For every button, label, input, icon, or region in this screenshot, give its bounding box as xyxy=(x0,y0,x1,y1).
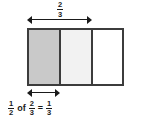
top-span-arrow xyxy=(27,15,92,24)
arrow-line xyxy=(31,92,56,93)
equation-fraction-one-third: 1 3 xyxy=(46,100,52,117)
equation-operator-of: of xyxy=(17,104,26,113)
fraction-denominator: 2 xyxy=(8,109,14,117)
area-model-cell-1 xyxy=(29,30,61,84)
fraction-numerator: 2 xyxy=(57,1,63,10)
area-model-cell-3 xyxy=(93,30,122,84)
area-model-cell-2 xyxy=(61,30,93,84)
arrow-line xyxy=(31,19,88,20)
equation: 1 2 of 2 3 = 1 3 xyxy=(8,99,52,117)
area-model-rectangle xyxy=(27,28,124,86)
equation-equals-sign: = xyxy=(38,104,43,113)
fraction-denominator: 3 xyxy=(46,109,52,117)
arrow-right-head-icon xyxy=(87,16,92,24)
arrow-right-head-icon xyxy=(55,89,60,97)
equation-fraction-two-thirds: 2 3 xyxy=(29,100,35,117)
bottom-span-arrow xyxy=(27,88,60,97)
equation-fraction-one-half: 1 2 xyxy=(8,100,14,117)
fraction-diagram: 2 3 1 2 of 2 3 = 1 3 xyxy=(0,0,145,120)
fraction-denominator: 3 xyxy=(29,109,35,117)
